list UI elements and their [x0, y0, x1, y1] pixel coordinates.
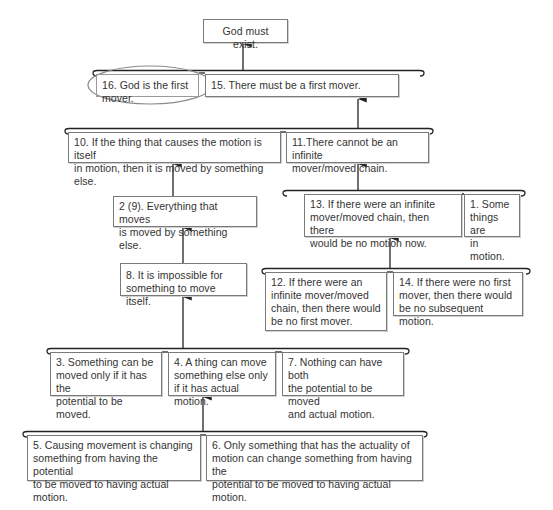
node-11: 11.There cannot be an infinite mover/mov… — [286, 132, 429, 163]
node-2-9: 2 (9). Everything that moves is moved by… — [113, 196, 257, 227]
node-14: 14. If there were no first mover, then t… — [393, 272, 523, 316]
node-6: 6. Only something that has the actuality… — [206, 435, 423, 481]
node-10: 10. If the thing that causes the motion … — [68, 132, 281, 163]
node-1: 1. Some things are in motion. — [464, 194, 520, 237]
node-16: 16. God is the first mover. — [96, 74, 199, 97]
node-12: 12. If there were an infinite mover/move… — [265, 272, 387, 331]
node-5: 5. Causing movement is changing somethin… — [27, 435, 201, 481]
node-13: 13. If there were an infinite mover/move… — [304, 194, 462, 237]
node-4: 4. A thing can move something else only … — [168, 352, 276, 396]
node-3: 3. Something can be moved only if it has… — [50, 352, 162, 396]
argument-map: God must exist. 16. God is the first mov… — [0, 0, 553, 510]
node-15: 15. There must be a first mover. — [205, 74, 399, 97]
node-conclusion: God must exist. — [203, 19, 288, 43]
node-8: 8. It is impossible for something to mov… — [120, 263, 247, 296]
node-7: 7. Nothing can have both the potential t… — [282, 352, 404, 396]
